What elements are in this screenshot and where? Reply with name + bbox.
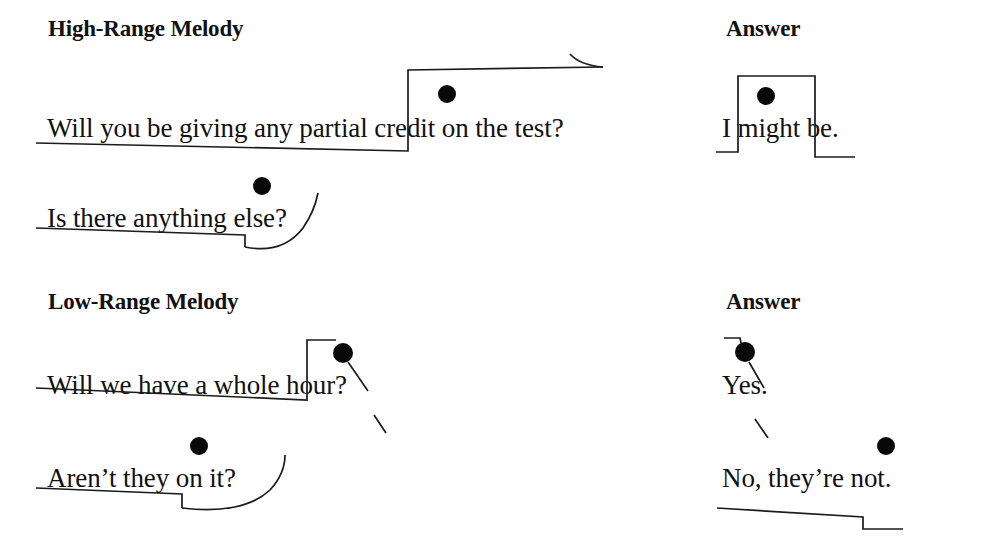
accent-dot-u7 [877,437,895,455]
contour-line-u5-fall-lower [755,419,768,438]
utterance-text-u3: Is there anything else? [47,203,287,234]
utterance-text-u4: Will we have a whole hour? [47,370,347,401]
heading-answer-bottom: Answer [726,289,800,315]
accent-dot-u2 [757,87,775,105]
heading-low-range-melody: Low-Range Melody [48,289,238,315]
accent-dot-u4 [333,343,353,363]
accent-dot-u3 [253,177,271,195]
prosodic-contour-figure: High-Range Melody Answer Low-Range Melod… [0,0,993,555]
utterance-text-u7: No, they’re not. [722,463,891,494]
heading-answer-top: Answer [726,16,800,42]
contour-line-u5-onset [724,338,741,343]
utterance-text-u1: Will you be giving any partial credit on… [47,113,564,144]
heading-high-range-melody: High-Range Melody [48,16,243,42]
accent-dot-u1 [438,85,456,103]
utterance-text-u5: Yes. [722,370,768,401]
contour-line-u7-body [717,508,903,529]
contour-line-u1-final-rise [570,54,603,67]
contour-line-u4-fall-upper [348,362,368,391]
accent-dot-u6 [190,437,208,455]
contour-line-u4-fall-lower [374,415,386,433]
accent-dot-u5 [735,342,755,362]
utterance-text-u2: I might be. [722,113,839,144]
utterance-text-u6: Aren’t they on it? [47,463,236,494]
